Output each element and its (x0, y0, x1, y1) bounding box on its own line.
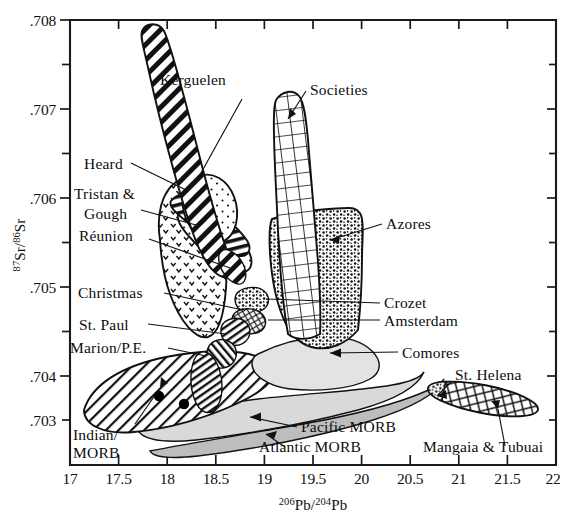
data-point (154, 391, 164, 401)
x-tick-label: 19.5 (300, 470, 327, 487)
label-st-paul: St. Paul (79, 316, 129, 333)
y-tick-label: .704 (30, 368, 57, 385)
label-atlantic-morb: Atlantic MORB (259, 438, 361, 455)
label-christmas: Christmas (78, 284, 143, 301)
x-tick-label: 18 (160, 470, 176, 487)
label-heard: Heard (84, 155, 123, 172)
data-point (179, 399, 189, 409)
label-st-helena: St. Helena (455, 366, 522, 383)
x-tick-label: 19 (257, 470, 273, 487)
y-tick-label: .707 (30, 101, 57, 118)
label-indian-morb-1: Indian/ (73, 426, 119, 443)
y-title-sr-1: Sr (12, 247, 28, 261)
label-kerguelen: Kerguelen (160, 71, 226, 88)
label-pacific-morb: Pacific MORB (301, 418, 396, 435)
x-title-pb-1: Pb (295, 497, 311, 513)
label-amsterdam: Amsterdam (384, 312, 458, 329)
y-title-sr-2: Sr (12, 219, 28, 233)
x-title-sup-206: 206 (279, 496, 295, 507)
x-tick-label: 17 (62, 470, 78, 487)
y-title-sup-87: 87 (11, 261, 22, 272)
chart-canvas: 17 17.5 18 18.5 19 19.5 20 20.5 21 21.5 … (0, 0, 571, 525)
label-indian-morb-2: MORB (73, 444, 119, 461)
label-tristan-gough-1: Tristan & (74, 185, 135, 202)
y-tick-label: .705 (30, 279, 57, 296)
x-tick-label: 22 (545, 470, 560, 487)
y-tick-label: .708 (30, 12, 57, 29)
y-tick-label: .706 (30, 190, 57, 207)
x-tick-label: 17.5 (105, 470, 132, 487)
y-tick-label: .703 (30, 412, 57, 429)
y-title-sup-86: 86 (11, 232, 22, 243)
x-title-pb-2: Pb (331, 497, 347, 513)
x-tick-label: 20 (354, 470, 370, 487)
label-reunion: Réunion (79, 227, 133, 244)
label-comores: Comores (402, 344, 459, 361)
label-azores: Azores (386, 215, 431, 232)
x-tick-label: 21 (451, 470, 466, 487)
x-tick-label: 18.5 (203, 470, 230, 487)
label-tristan-gough-2: Gough (84, 205, 127, 222)
isotope-scatter-figure: 17 17.5 18 18.5 19 19.5 20 20.5 21 21.5 … (0, 0, 571, 525)
label-societies: Societies (310, 81, 368, 98)
label-marion-pe: Marion/P.E. (70, 339, 146, 356)
label-crozet: Crozet (384, 294, 427, 311)
x-tick-label: 21.5 (494, 470, 521, 487)
x-tick-label: 20.5 (397, 470, 424, 487)
label-mangaia-tubuai: Mangaia & Tubuai (423, 438, 544, 455)
x-title-sup-204: 204 (315, 496, 332, 507)
